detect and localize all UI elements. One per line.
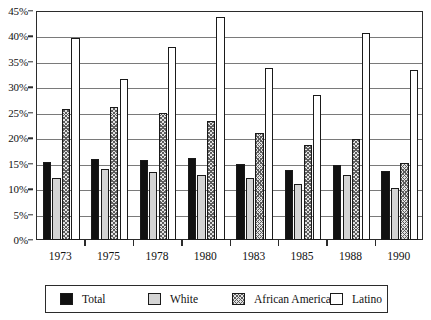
bar-group	[381, 11, 418, 240]
x-tick-label: 1973	[49, 250, 72, 263]
bar	[140, 160, 148, 240]
bar	[120, 79, 128, 240]
x-tick-label: 1980	[194, 250, 217, 263]
x-axis: 19731975197819801983198519881990	[36, 240, 423, 270]
y-tick-mark	[28, 239, 33, 240]
x-tick-mark	[230, 240, 231, 246]
y-tick-mark	[28, 163, 33, 164]
y-tick-mark	[28, 188, 33, 189]
bar	[110, 107, 118, 240]
bar	[265, 68, 273, 240]
bar	[52, 178, 60, 240]
legend-swatch-icon	[148, 293, 161, 305]
bar-group	[43, 11, 80, 240]
chart-legend: TotalWhiteAfrican AmericanLatino	[45, 285, 388, 313]
bar-group	[333, 11, 370, 240]
bar-group	[140, 11, 177, 240]
bar	[197, 175, 205, 240]
legend-item-latino[interactable]: Latino	[330, 293, 382, 305]
y-tick-label: 40%	[8, 31, 28, 42]
bar	[313, 95, 321, 240]
bar	[294, 184, 302, 240]
bar	[333, 165, 341, 240]
y-tick-mark	[28, 10, 33, 11]
legend-item-white[interactable]: White	[148, 293, 198, 305]
bar	[91, 159, 99, 240]
bar	[362, 33, 370, 240]
bars-layer	[36, 11, 423, 240]
x-tick-mark	[133, 240, 134, 246]
bar	[343, 175, 351, 240]
bar	[352, 139, 360, 240]
bar	[410, 70, 418, 240]
y-tick-mark	[28, 214, 33, 215]
bar	[168, 47, 176, 240]
y-tick-mark	[28, 87, 33, 88]
bar	[236, 164, 244, 240]
y-tick-label: 45%	[8, 6, 28, 17]
x-tick-mark	[278, 240, 279, 246]
bar-chart: 0%5%10%15%20%25%30%35%40%45% 19731975197…	[0, 0, 431, 320]
bar	[304, 145, 312, 240]
legend-swatch-icon	[330, 293, 343, 305]
y-tick-label: 20%	[8, 133, 28, 144]
y-tick-label: 10%	[8, 184, 28, 195]
bar	[159, 113, 167, 240]
legend-label: African American	[254, 293, 337, 305]
bar	[381, 171, 389, 240]
x-tick-label: 1975	[97, 250, 120, 263]
y-tick-mark	[28, 138, 33, 139]
bar-group	[236, 11, 273, 240]
bar-group	[188, 11, 225, 240]
bar	[71, 38, 79, 240]
x-tick-mark	[375, 240, 376, 246]
y-tick-label: 0%	[14, 235, 28, 246]
bar	[216, 17, 224, 240]
bar	[188, 158, 196, 240]
x-tick-mark	[181, 240, 182, 246]
y-tick-mark	[28, 112, 33, 113]
x-tick-label: 1983	[242, 250, 265, 263]
bar-group	[285, 11, 322, 240]
legend-item-total[interactable]: Total	[60, 293, 105, 305]
bar	[285, 170, 293, 240]
legend-label: Latino	[352, 293, 382, 305]
legend-label: White	[170, 293, 198, 305]
legend-item-african-american[interactable]: African American	[232, 293, 337, 305]
legend-label: Total	[82, 293, 105, 305]
legend-swatch-icon	[60, 293, 73, 305]
legend-swatch-icon	[232, 293, 245, 305]
bar-group	[91, 11, 128, 240]
bar	[149, 172, 157, 240]
bar	[246, 178, 254, 240]
x-tick-label: 1978	[145, 250, 168, 263]
bar	[391, 188, 399, 240]
bar	[43, 162, 51, 240]
x-tick-label: 1988	[339, 250, 362, 263]
y-tick-label: 30%	[8, 82, 28, 93]
y-tick-label: 25%	[8, 107, 28, 118]
bar	[101, 169, 109, 240]
y-tick-label: 15%	[8, 158, 28, 169]
bar	[207, 121, 215, 240]
y-axis: 0%5%10%15%20%25%30%35%40%45%	[0, 0, 36, 240]
x-tick-mark	[84, 240, 85, 246]
y-tick-label: 5%	[14, 209, 28, 220]
y-tick-mark	[28, 36, 33, 37]
x-tick-mark	[326, 240, 327, 246]
y-tick-label: 35%	[8, 56, 28, 67]
bar	[400, 163, 408, 240]
x-tick-label: 1990	[387, 250, 410, 263]
bar	[62, 109, 70, 240]
y-tick-mark	[28, 61, 33, 62]
bar	[255, 133, 263, 240]
x-tick-label: 1985	[291, 250, 314, 263]
